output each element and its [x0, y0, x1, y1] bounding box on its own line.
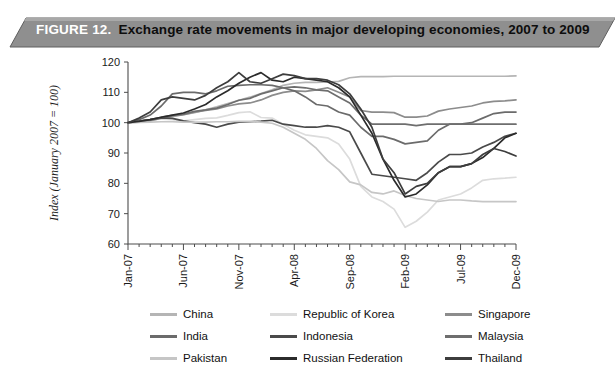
x-tick-label: Jul-09 [455, 254, 467, 284]
legend-swatch-pakistan [150, 357, 177, 360]
legend-item-malaysia[interactable]: Malaysia [445, 330, 595, 342]
y-tick-label: 120 [102, 56, 120, 68]
series-line-russian-federation [128, 73, 516, 197]
y-axis-title: Index (January 2007 = 100) [47, 85, 61, 222]
legend-label-pakistan: Pakistan [183, 352, 227, 364]
y-tick-label: 60 [108, 238, 120, 250]
legend-item-india[interactable]: India [150, 330, 270, 342]
x-tick-label: Nov-07 [233, 254, 245, 289]
legend-swatch-thailand [445, 357, 472, 360]
series-line-indonesia [128, 118, 516, 180]
y-tick-label: 80 [108, 177, 120, 189]
series-line-pakistan [128, 121, 516, 201]
legend-item-russian-federation[interactable]: Russian Federation [270, 352, 445, 364]
x-tick-label: Jun-07 [177, 254, 189, 288]
legend-item-republic-of-korea[interactable]: Republic of Korea [270, 308, 445, 320]
legend-item-china[interactable]: China [150, 308, 270, 320]
banner-parallelogram [10, 18, 615, 47]
series-lines [128, 73, 516, 228]
banner-shape [0, 9, 615, 49]
chart-legend: ChinaRepublic of KoreaSingaporeIndiaIndo… [150, 303, 600, 369]
legend-label-indonesia: Indonesia [303, 330, 353, 342]
legend-swatch-indonesia [270, 335, 297, 338]
x-tick-label: Dec-09 [510, 254, 522, 289]
legend-label-russian-federation: Russian Federation [303, 352, 403, 364]
legend-label-republic-of-korea: Republic of Korea [303, 308, 394, 320]
legend-label-malaysia: Malaysia [478, 330, 523, 342]
legend-label-thailand: Thailand [478, 352, 522, 364]
y-tick-label: 100 [102, 117, 120, 129]
y-tick-label: 70 [108, 208, 120, 220]
legend-swatch-india [150, 335, 177, 338]
series-line-republic-of-korea [128, 112, 516, 228]
legend-swatch-republic-of-korea [270, 313, 297, 316]
legend-item-pakistan[interactable]: Pakistan [150, 352, 270, 364]
line-chart: Index (January 2007 = 100) 6070809010011… [0, 50, 615, 300]
legend-item-singapore[interactable]: Singapore [445, 308, 595, 320]
legend-swatch-singapore [445, 313, 472, 316]
legend-swatch-china [150, 313, 177, 316]
y-axis-ticks: 60708090100110120 [102, 56, 128, 250]
legend-item-thailand[interactable]: Thailand [445, 352, 595, 364]
banner-highlight [24, 18, 615, 21]
x-tick-label: Feb-09 [399, 254, 411, 289]
x-tick-label: Sep-08 [344, 254, 356, 289]
legend-item-indonesia[interactable]: Indonesia [270, 330, 445, 342]
chart-container: Index (January 2007 = 100) 6070809010011… [0, 50, 615, 300]
legend-label-china: China [183, 308, 213, 320]
legend-swatch-russian-federation [270, 357, 297, 360]
figure-banner: FIGURE 12. Exchange rate movements in ma… [0, 9, 615, 49]
x-tick-label: Apr-08 [288, 254, 300, 287]
legend-label-singapore: Singapore [478, 308, 530, 320]
legend-label-india: India [183, 330, 208, 342]
y-tick-label: 110 [102, 86, 120, 98]
x-axis-ticks: Jan-07Jun-07Nov-07Apr-08Sep-08Feb-09Jul-… [122, 244, 522, 289]
legend-swatch-malaysia [445, 335, 472, 338]
x-tick-label: Jan-07 [122, 254, 134, 288]
y-tick-label: 90 [108, 147, 120, 159]
